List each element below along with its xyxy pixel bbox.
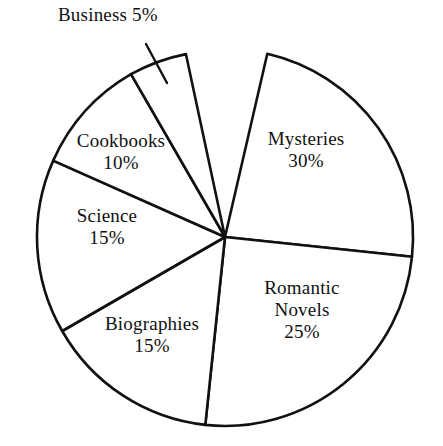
pie-label-science: Science 15% [55, 205, 159, 249]
pie-label-business: Business 5% [58, 4, 158, 26]
pie-label-biographies-name: Biographies [88, 313, 216, 335]
pie-label-science-name: Science [55, 205, 159, 227]
pie-label-romantic-novels-name-line2: Novels [243, 299, 361, 321]
pie-label-business-text: Business 5% [58, 4, 158, 25]
pie-label-mysteries: Mysteries 30% [247, 128, 365, 172]
pie-label-science-value: 15% [55, 227, 159, 249]
pie-label-cookbooks-name: Cookbooks [60, 130, 182, 152]
pie-label-romantic-novels-value: 25% [243, 321, 361, 343]
pie-label-biographies-value: 15% [88, 335, 216, 357]
pie-label-cookbooks-value: 10% [60, 152, 182, 174]
pie-label-biographies: Biographies 15% [88, 313, 216, 357]
pie-label-mysteries-value: 30% [247, 150, 365, 172]
pie-chart-figure: Business 5% Cookbooks 10% Science 15% Bi… [0, 0, 443, 446]
pie-label-cookbooks: Cookbooks 10% [60, 130, 182, 174]
pie-label-romantic-novels: Romantic Novels 25% [243, 277, 361, 343]
pie-label-mysteries-name: Mysteries [247, 128, 365, 150]
pie-label-romantic-novels-name-line1: Romantic [243, 277, 361, 299]
